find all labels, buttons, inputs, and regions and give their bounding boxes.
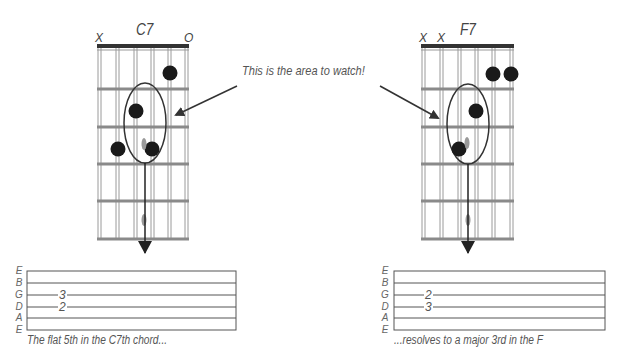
f7-dot-s6-f1 <box>504 67 519 82</box>
c7-dot-s5-f1 <box>163 66 178 81</box>
c7-tab-string-name: E <box>14 266 24 276</box>
f7-tab-string-name: E <box>380 325 390 335</box>
c7-chord-name: C7 <box>136 22 153 38</box>
f7-string-6-muted-marker: X <box>419 32 427 44</box>
c7-string-1-open-marker: O <box>184 32 193 44</box>
f7-string-5-muted-marker: X <box>437 32 445 44</box>
diagram-graphics <box>0 0 617 363</box>
chord-resolution-diagram: C7 X O F7 X X This is the area to watch!… <box>0 0 617 363</box>
callout-text: This is the area to watch! <box>242 64 365 77</box>
f7-tab-string-name: A <box>380 313 390 323</box>
f7-chord-name: F7 <box>460 22 476 38</box>
c7-tab-string-name: B <box>14 278 24 288</box>
c7-dot-s3-f2 <box>129 104 144 119</box>
f7-tab-note-d: 3 <box>424 301 433 313</box>
c7-caption: The flat 5th in the C7th chord... <box>27 334 167 346</box>
f7-ghost-note <box>465 137 470 149</box>
c7-ghost-note <box>142 138 147 150</box>
c7-tab-note-d: 2 <box>58 301 67 313</box>
f7-dot-s5-f1 <box>486 67 501 82</box>
f7-tab-string-name: E <box>380 266 390 276</box>
f7-tab-string-name: G <box>380 290 390 300</box>
c7-nut <box>97 44 189 48</box>
f7-caption: ...resolves to a major 3rd in the F <box>394 334 543 346</box>
f7-dot-s3-f3 <box>452 142 467 157</box>
callout-arrow-right <box>380 86 438 118</box>
c7-dot-s2-f3 <box>111 142 126 157</box>
f7-tab-string-name: D <box>380 302 390 312</box>
c7-string-6-muted-marker: X <box>95 32 103 44</box>
c7-tab-string-name: E <box>14 325 24 335</box>
f7-tab-string-name: B <box>380 278 390 288</box>
f7-nut <box>421 44 514 48</box>
c7-tab-string-name: G <box>14 290 24 300</box>
f7-dot-s4-f2 <box>469 104 484 119</box>
c7-tab-string-name: D <box>14 302 24 312</box>
c7-dot-s4-f3 <box>145 142 160 157</box>
c7-tab-string-name: A <box>14 313 24 323</box>
c7-fretboard <box>97 44 189 253</box>
f7-fretboard <box>421 44 519 253</box>
